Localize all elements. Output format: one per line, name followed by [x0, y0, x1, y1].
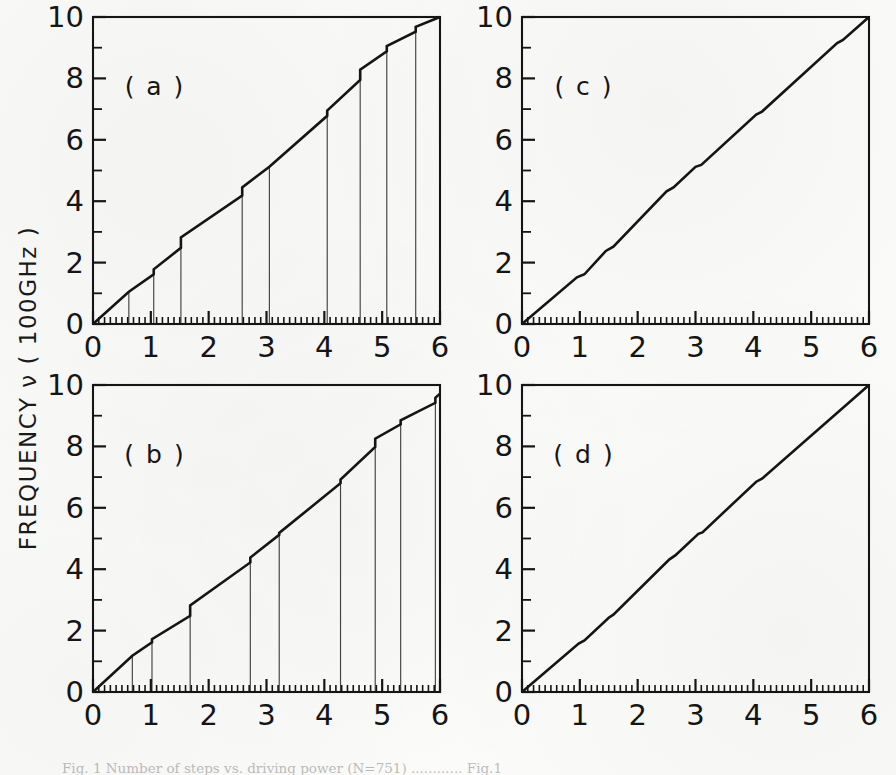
x-tick-label: 6	[431, 698, 449, 732]
x-tick-label: 3	[257, 698, 275, 732]
y-tick-label: 2	[495, 614, 513, 648]
x-tick-label: 3	[686, 698, 704, 732]
y-tick-label: 0	[66, 307, 84, 341]
y-ticks: 0246810	[47, 368, 106, 709]
y-tick-label: 6	[495, 123, 513, 157]
x-tick-label: 0	[84, 698, 102, 732]
panel-label: ( a )	[125, 72, 186, 101]
x-tick-label: 2	[628, 698, 646, 732]
panel-a: 01234560246810( a )	[56, 2, 446, 374]
data-curve	[522, 385, 869, 692]
panel-b-plot: 01234560246810( b )	[56, 370, 446, 742]
x-tick-label: 3	[257, 330, 275, 364]
x-tick-label: 0	[513, 330, 531, 364]
x-tick-label: 5	[373, 698, 391, 732]
y-tick-label: 0	[495, 675, 513, 709]
x-tick-label: 2	[628, 330, 646, 364]
data-curve	[93, 17, 440, 324]
x-tick-label: 2	[199, 698, 217, 732]
panel-b: 01234560246810( b )	[56, 370, 446, 742]
figure-caption: Fig. 1 Number of steps vs. driving power…	[62, 760, 882, 775]
panel-c-plot: 01234560246810( c )	[485, 2, 885, 374]
x-tick-label: 1	[142, 698, 160, 732]
y-tick-label: 4	[66, 552, 84, 586]
y-tick-label: 2	[495, 246, 513, 280]
y-tick-label: 4	[495, 552, 513, 586]
panel-d-plot: 01234560246810( d )	[485, 370, 885, 742]
y-tick-label: 10	[476, 0, 513, 34]
x-tick-label: 4	[315, 330, 333, 364]
x-tick-label: 4	[744, 330, 762, 364]
panel-label: ( c )	[554, 72, 613, 101]
y-tick-label: 10	[47, 368, 84, 402]
data-curve	[93, 394, 440, 692]
x-tick-label: 1	[142, 330, 160, 364]
x-tick-label: 6	[860, 330, 878, 364]
x-tick-label: 6	[860, 698, 878, 732]
y-tick-label: 0	[495, 307, 513, 341]
x-tick-label: 2	[199, 330, 217, 364]
y-tick-label: 0	[66, 675, 84, 709]
panel-a-plot: 01234560246810( a )	[56, 2, 446, 374]
y-tick-label: 6	[495, 491, 513, 525]
y-tick-label: 4	[66, 184, 84, 218]
y-tick-label: 2	[66, 246, 84, 280]
y-tick-label: 8	[66, 61, 84, 95]
y-tick-label: 10	[476, 368, 513, 402]
x-tick-label: 3	[686, 330, 704, 364]
y-tick-label: 6	[66, 123, 84, 157]
x-tick-label: 1	[571, 330, 589, 364]
y-tick-label: 8	[495, 61, 513, 95]
y-tick-label: 2	[66, 614, 84, 648]
x-tick-label: 0	[513, 698, 531, 732]
y-ticks: 0246810	[476, 0, 535, 341]
y-ticks: 0246810	[47, 0, 106, 341]
x-tick-label: 4	[744, 698, 762, 732]
y-ticks: 0246810	[476, 368, 535, 709]
x-tick-label: 1	[571, 698, 589, 732]
x-tick-label: 5	[802, 330, 820, 364]
figure-root: FREQUENCY ν ( 100GHz ) 01234560246810( a…	[0, 0, 896, 775]
panel-label: ( d )	[553, 440, 614, 469]
y-axis-label: FREQUENCY ν ( 100GHz )	[15, 225, 41, 549]
y-tick-label: 8	[66, 429, 84, 463]
panel-c: 01234560246810( c )	[485, 2, 885, 374]
y-tick-label: 4	[495, 184, 513, 218]
x-tick-label: 5	[373, 330, 391, 364]
x-tick-label: 4	[315, 698, 333, 732]
y-tick-label: 10	[47, 0, 84, 34]
x-tick-label: 5	[802, 698, 820, 732]
panel-d: 01234560246810( d )	[485, 370, 885, 742]
y-tick-label: 8	[495, 429, 513, 463]
data-curve	[522, 17, 869, 324]
panel-label: ( b )	[124, 440, 185, 469]
x-tick-label: 0	[84, 330, 102, 364]
x-tick-label: 6	[431, 330, 449, 364]
y-tick-label: 6	[66, 491, 84, 525]
